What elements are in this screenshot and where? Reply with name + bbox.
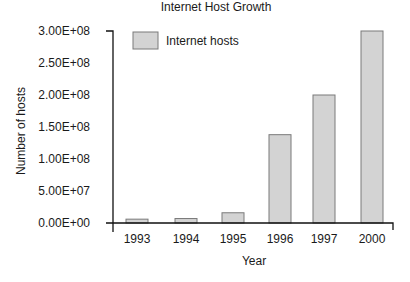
y-tick-label: 5.00E+07 bbox=[38, 184, 90, 198]
y-tick-label: 1.00E+08 bbox=[38, 152, 90, 166]
y-tick-label: 2.50E+08 bbox=[38, 56, 90, 70]
bar-2000 bbox=[361, 31, 383, 223]
x-axis-line bbox=[106, 223, 393, 230]
bar-1997 bbox=[313, 95, 335, 223]
bar-chart: Internet Host Growth 0.00E+005.00E+071.0… bbox=[0, 0, 410, 282]
x-tick-label: 1993 bbox=[124, 232, 151, 246]
x-axis-label: Year bbox=[242, 254, 266, 268]
x-tick-label: 1994 bbox=[173, 232, 200, 246]
bar-1996 bbox=[269, 135, 291, 223]
y-axis-line bbox=[106, 31, 113, 232]
x-tick-label: 1997 bbox=[311, 232, 338, 246]
y-tick-label: 2.00E+08 bbox=[38, 88, 90, 102]
legend-label: Internet hosts bbox=[166, 34, 239, 48]
x-tick-label: 2000 bbox=[359, 232, 386, 246]
bar-series-internet-hosts bbox=[126, 31, 383, 223]
y-tick-label: 3.00E+08 bbox=[38, 24, 90, 38]
x-axis-tick-labels: 199319941995199619972000 bbox=[124, 232, 386, 246]
y-tick-label: 0.00E+00 bbox=[38, 216, 90, 230]
bar-1994 bbox=[175, 219, 197, 223]
y-tick-label: 1.50E+08 bbox=[38, 120, 90, 134]
y-axis-label: Number of hosts bbox=[14, 87, 28, 175]
y-axis-tick-labels: 0.00E+005.00E+071.00E+081.50E+082.00E+08… bbox=[38, 24, 90, 230]
bar-1995 bbox=[222, 213, 244, 223]
x-tick-label: 1995 bbox=[220, 232, 247, 246]
x-tick-label: 1996 bbox=[267, 232, 294, 246]
chart-title: Internet Host Growth bbox=[161, 0, 272, 14]
legend-swatch bbox=[133, 32, 158, 49]
legend: Internet hosts bbox=[133, 32, 239, 49]
